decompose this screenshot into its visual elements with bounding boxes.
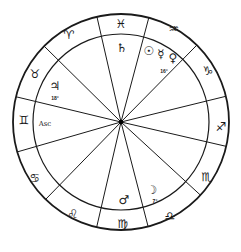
house-cusp-line-2 [121, 18, 149, 122]
degree-label: 18° [51, 95, 59, 101]
capricorn-sign-icon: ♑ [203, 64, 214, 78]
house-cusp-line-1 [97, 17, 121, 122]
degree-label: 16° [160, 68, 168, 74]
house-cusp-line-11 [16, 97, 121, 122]
aquarius-sign-icon: ♒ [169, 22, 180, 36]
astrology-chart-wheel: ♓♒♑♐♏♎♍♌♋♊♉♈ ♄☉☿♀♃♂☽ 16°18°7° Asc [0, 0, 241, 252]
scorpio-sign-icon: ♏ [202, 170, 213, 184]
mars-planet-icon: ♂ [119, 193, 130, 207]
cancer-sign-icon: ♋ [30, 171, 41, 185]
house-cusp-line-9 [46, 122, 121, 199]
center-dot [119, 120, 123, 124]
venus-planet-icon: ♀ [169, 51, 178, 65]
house-cusp-line-7 [121, 122, 148, 227]
ascendant-label: Asc [38, 120, 52, 128]
mercury-planet-icon: ☿ [157, 47, 164, 61]
house-cusp-line-8 [97, 122, 121, 227]
house-cusp-line-5 [121, 122, 226, 146]
leo-sign-icon: ♌ [68, 207, 79, 221]
pisces-sign-icon: ♓ [116, 17, 127, 31]
saturn-planet-icon: ♄ [117, 41, 128, 55]
aries-sign-icon: ♈ [64, 28, 75, 42]
jupiter-planet-icon: ♃ [50, 79, 61, 93]
sagittarius-sign-icon: ♐ [216, 120, 227, 134]
gemini-sign-icon: ♊ [19, 113, 30, 127]
libra-sign-icon: ♎ [165, 209, 176, 223]
moon-planet-icon: ☽ [147, 183, 158, 197]
virgo-sign-icon: ♍ [118, 217, 129, 231]
house-cusp-line-4 [121, 96, 226, 122]
taurus-sign-icon: ♉ [30, 67, 41, 81]
house-cusp-line-6 [121, 122, 200, 195]
sun-planet-icon: ☉ [144, 44, 155, 58]
degree-label: 7° [153, 198, 158, 204]
